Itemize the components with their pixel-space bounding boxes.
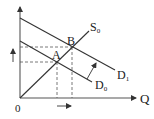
curve-label-s0-main: S — [90, 20, 97, 34]
curve-label-d0-sub: 0 — [104, 85, 108, 93]
supply-curve-s0 — [20, 31, 89, 98]
supply-demand-diagram: B A S0 D1 D0 Q 0 — [0, 0, 154, 119]
point-label-b: B — [67, 34, 75, 48]
curve-label-s0: S0 — [90, 20, 101, 35]
curve-label-d1-sub: 1 — [126, 75, 130, 83]
curve-label-d1: D1 — [117, 68, 130, 83]
x-axis-label: Q — [140, 91, 150, 106]
curve-label-d0: D0 — [95, 78, 108, 93]
point-label-a: A — [52, 48, 61, 62]
curve-label-d0-main: D — [95, 78, 104, 92]
curve-label-d1-main: D — [117, 68, 126, 82]
origin-label: 0 — [15, 102, 21, 114]
curve-label-s0-sub: 0 — [97, 27, 101, 35]
demand-shift-arrow-icon — [87, 63, 96, 79]
